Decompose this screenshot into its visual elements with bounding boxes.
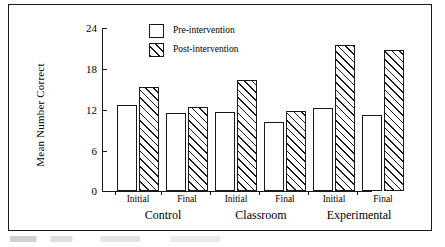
y-tick-label-6: 6 bbox=[71, 146, 97, 157]
x-sublabel-control-initial: Initial bbox=[113, 194, 163, 204]
bar-chart: Mean Number Correct 24 18 12 6 0 bbox=[9, 5, 433, 232]
y-tick-label-18: 18 bbox=[71, 64, 97, 75]
bar-experimental-final-post bbox=[384, 50, 404, 192]
x-group-label-experimental: Experimental bbox=[309, 209, 409, 222]
y-tick-mark-12 bbox=[102, 110, 107, 111]
y-tick-mark-18 bbox=[102, 69, 107, 70]
bar-control-final-post bbox=[188, 107, 208, 191]
legend-label-post-intervention: Post-intervention bbox=[173, 44, 238, 55]
scan-artifact bbox=[10, 236, 430, 242]
y-tick-mark-6 bbox=[102, 151, 107, 152]
x-group-label-control: Control bbox=[113, 209, 213, 222]
bar-classroom-initial-post bbox=[237, 80, 257, 191]
bar-experimental-initial-post bbox=[335, 45, 355, 191]
y-tick-label-0: 0 bbox=[71, 186, 97, 197]
figure-frame: Mean Number Correct 24 18 12 6 0 bbox=[8, 4, 432, 231]
bar-control-initial-post bbox=[139, 87, 159, 191]
legend-item-post-intervention: Post-intervention bbox=[149, 42, 299, 61]
figure-page: Mean Number Correct 24 18 12 6 0 bbox=[0, 0, 445, 247]
y-tick-mark-24 bbox=[102, 28, 107, 29]
chart-legend: Pre-intervention Post-intervention bbox=[149, 23, 299, 61]
bar-classroom-final-pre bbox=[264, 122, 284, 191]
x-sublabel-classroom-initial: Initial bbox=[211, 194, 261, 204]
legend-item-pre-intervention: Pre-intervention bbox=[149, 23, 299, 42]
x-sublabel-experimental-initial: Initial bbox=[309, 194, 359, 204]
y-axis-title: Mean Number Correct bbox=[34, 40, 46, 190]
x-sublabel-control-final: Final bbox=[162, 194, 212, 204]
bar-classroom-initial-pre bbox=[215, 112, 235, 191]
y-tick-label-24: 24 bbox=[71, 23, 97, 34]
y-tick-mark-0 bbox=[102, 191, 107, 192]
empty-box-icon bbox=[149, 24, 164, 38]
legend-label-pre-intervention: Pre-intervention bbox=[173, 25, 235, 36]
x-sublabel-classroom-final: Final bbox=[260, 194, 310, 204]
x-axis-line bbox=[102, 191, 372, 192]
x-group-label-classroom: Classroom bbox=[211, 209, 311, 222]
bar-control-initial-pre bbox=[117, 105, 137, 192]
bar-classroom-final-post bbox=[286, 111, 306, 191]
x-sublabel-experimental-final: Final bbox=[358, 194, 408, 204]
hatched-box-icon bbox=[149, 43, 164, 57]
y-tick-label-12: 12 bbox=[71, 105, 97, 116]
bar-experimental-final-pre bbox=[362, 115, 382, 191]
bar-experimental-initial-pre bbox=[313, 108, 333, 191]
bar-control-final-pre bbox=[166, 113, 186, 191]
